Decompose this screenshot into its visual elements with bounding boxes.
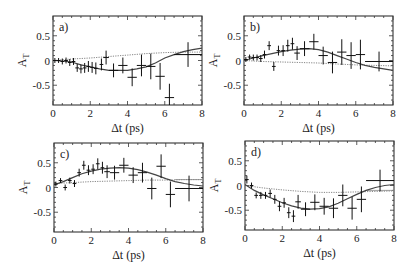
data-point bbox=[57, 58, 61, 63]
y-tick-label: -0.5 bbox=[34, 206, 52, 218]
data-point bbox=[244, 57, 248, 62]
x-tick-label: 4 bbox=[126, 234, 132, 246]
data-point bbox=[287, 207, 291, 218]
y-tick-label: 0.5 bbox=[228, 155, 242, 167]
x-axis-label: Δt (ps) bbox=[302, 121, 335, 135]
data-point bbox=[156, 154, 165, 178]
panel-label: b) bbox=[250, 20, 260, 34]
data-point bbox=[87, 61, 91, 72]
data-point bbox=[87, 165, 91, 175]
data-point bbox=[174, 42, 202, 67]
x-tick-label: 8 bbox=[199, 107, 205, 119]
plot-frame bbox=[54, 143, 203, 232]
data-point bbox=[119, 158, 128, 173]
x-tick-label: 2 bbox=[280, 232, 286, 244]
data-point bbox=[272, 62, 276, 71]
data-point bbox=[292, 210, 296, 222]
data-point bbox=[278, 201, 282, 211]
data-point bbox=[267, 41, 271, 50]
y-axis-label: AT bbox=[207, 179, 223, 193]
plot-frame bbox=[244, 16, 393, 105]
data-point bbox=[254, 192, 258, 198]
data-point bbox=[320, 198, 329, 215]
data-point bbox=[104, 165, 110, 178]
x-tick-label: 6 bbox=[163, 234, 169, 246]
data-point bbox=[146, 54, 155, 80]
x-tick-label: 8 bbox=[391, 232, 397, 244]
y-tick-label: 0.5 bbox=[37, 157, 51, 169]
data-point bbox=[294, 46, 300, 60]
panel-label: a) bbox=[59, 20, 68, 34]
x-tick-label: 0 bbox=[242, 232, 248, 244]
data-point bbox=[365, 52, 393, 72]
data-point bbox=[82, 161, 86, 170]
x-tick-label: 0 bbox=[51, 234, 57, 246]
x-tick-label: 8 bbox=[390, 107, 396, 119]
plot-frame bbox=[53, 16, 202, 105]
data-point bbox=[68, 59, 72, 66]
data-point bbox=[357, 186, 366, 212]
data-point bbox=[273, 195, 277, 204]
x-tick-label: 8 bbox=[200, 234, 206, 246]
x-tick-label: 0 bbox=[50, 107, 56, 119]
panel-label: c) bbox=[60, 147, 69, 161]
data-point bbox=[319, 47, 328, 65]
data-point bbox=[109, 63, 118, 77]
four-panel-asymmetry-plot: 024680.50-0.5Δt (ps)ATa)024680.50-0.5Δt … bbox=[0, 0, 417, 271]
data-point bbox=[94, 62, 98, 74]
data-point bbox=[64, 58, 68, 64]
data-point bbox=[137, 55, 146, 77]
y-tick-label: 0.5 bbox=[36, 30, 50, 42]
data-point bbox=[309, 34, 318, 50]
y-tick-label: 0.5 bbox=[227, 30, 241, 42]
data-point bbox=[251, 55, 255, 61]
x-tick-label: 4 bbox=[316, 107, 322, 119]
y-tick-label: 0 bbox=[236, 55, 242, 67]
data-point bbox=[73, 180, 77, 187]
data-point bbox=[83, 63, 87, 73]
data-point bbox=[301, 202, 310, 216]
data-point bbox=[53, 58, 57, 63]
data-point bbox=[245, 176, 249, 184]
data-point bbox=[310, 194, 319, 210]
x-tick-label: 0 bbox=[241, 107, 247, 119]
data-point bbox=[255, 55, 259, 61]
data-point bbox=[329, 198, 338, 218]
x-tick-label: 6 bbox=[353, 107, 359, 119]
data-point bbox=[128, 68, 137, 86]
x-tick-label: 2 bbox=[279, 107, 285, 119]
data-point bbox=[75, 64, 79, 72]
x-tick-label: 2 bbox=[89, 234, 95, 246]
x-axis-label: Δt (ps) bbox=[303, 246, 336, 260]
data-point bbox=[347, 197, 356, 220]
data-point bbox=[96, 158, 100, 169]
data-point bbox=[264, 192, 268, 199]
panel-c: 024680.50-0.5Δt (ps)ATc) bbox=[16, 143, 206, 262]
plot-frame bbox=[245, 141, 394, 230]
x-tick-label: 6 bbox=[162, 107, 168, 119]
data-point bbox=[300, 41, 309, 56]
data-point bbox=[91, 164, 95, 174]
data-point bbox=[282, 198, 286, 208]
solid-fit-curve bbox=[244, 49, 393, 71]
data-point bbox=[155, 63, 164, 90]
panel-b: 024680.50-0.5Δt (ps)ATb) bbox=[206, 16, 396, 135]
data-point bbox=[281, 45, 285, 56]
y-tick-label: 0 bbox=[46, 182, 52, 194]
data-point bbox=[103, 51, 109, 65]
data-point bbox=[166, 182, 175, 208]
x-tick-label: 6 bbox=[354, 232, 360, 244]
figure: 024680.50-0.5Δt (ps)ATa)024680.50-0.5Δt … bbox=[0, 0, 417, 271]
x-tick-label: 4 bbox=[317, 232, 323, 244]
y-tick-label: 0 bbox=[45, 55, 51, 67]
data-point bbox=[138, 163, 147, 183]
x-tick-label: 4 bbox=[125, 107, 131, 119]
y-tick-label: -0.5 bbox=[33, 79, 51, 91]
y-tick-label: -0.5 bbox=[225, 204, 243, 216]
panel-a: 024680.50-0.5Δt (ps)ATa) bbox=[15, 16, 205, 135]
x-tick-label: 2 bbox=[88, 107, 94, 119]
y-axis-label: AT bbox=[16, 181, 32, 195]
panel-d: 024680.50-0.5Δt (ps)ATd) bbox=[207, 141, 397, 260]
x-axis-label: Δt (ps) bbox=[111, 121, 144, 135]
data-point bbox=[366, 170, 394, 192]
